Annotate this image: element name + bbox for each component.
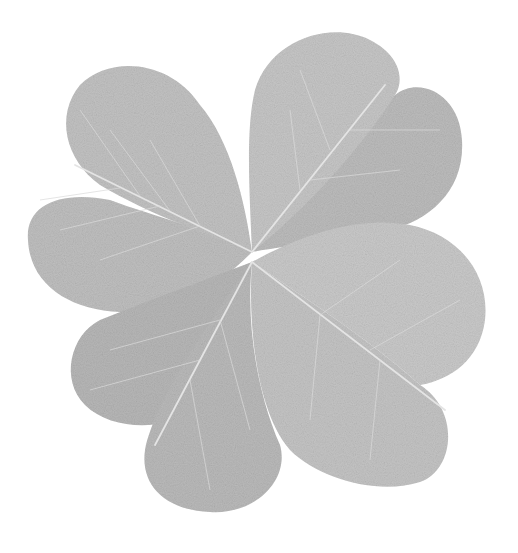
four-leaf-clover xyxy=(0,0,518,553)
photo-canvas xyxy=(0,0,518,553)
